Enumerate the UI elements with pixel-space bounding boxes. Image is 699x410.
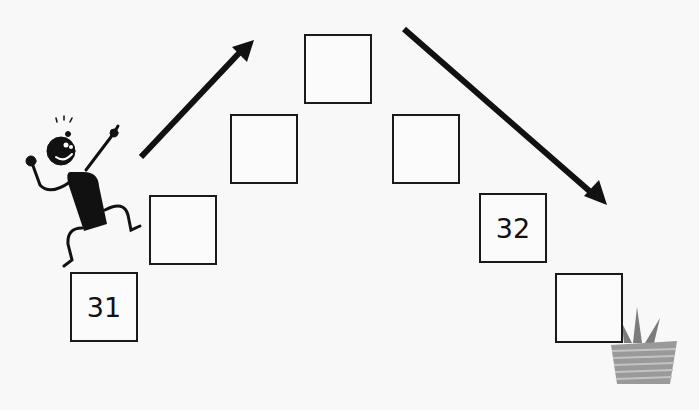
box-value: 32 [496,213,530,244]
box-value: 31 [87,292,121,323]
number-box-3[interactable] [230,114,298,184]
number-box-5[interactable] [392,114,460,184]
number-box-6[interactable]: 32 [479,193,547,263]
number-box-1[interactable]: 31 [70,272,138,342]
number-box-2[interactable] [149,195,217,265]
stick-figure-icon [26,116,140,266]
number-box-7[interactable] [555,273,623,343]
number-box-4[interactable] [304,34,372,104]
